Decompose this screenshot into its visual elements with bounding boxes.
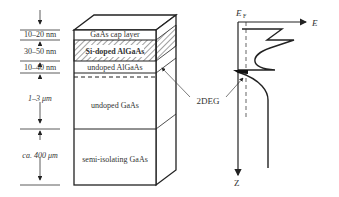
depth-axis-label: Z xyxy=(234,178,240,188)
heterostructure-diagram: 10–20 nm 30–50 nm 10–40 nm 1–3 μm ca. 40… xyxy=(0,0,339,197)
layer-label-undoped-gaas: undoped GaAs xyxy=(91,101,139,110)
thickness-label-undoped-gaas: 1–3 μm xyxy=(28,94,52,103)
energy-axis-label: E xyxy=(311,18,318,28)
layer-label-substrate: semi-isolating GaAs xyxy=(82,155,148,164)
thickness-label-cap: 10–20 nm xyxy=(24,30,57,39)
fermi-level-subscript: F xyxy=(243,13,247,19)
thickness-label-doped: 30–50 nm xyxy=(24,47,57,56)
band-diagram xyxy=(238,22,306,175)
layer-label-undoped-algaas: undoped AlGaAs xyxy=(87,63,142,72)
thickness-label-substrate: ca. 400 μm xyxy=(22,151,58,160)
thickness-label-undoped-algaas: 10–40 nm xyxy=(24,63,57,72)
2deg-label: 2DEG xyxy=(197,96,220,106)
layer-label-cap: GaAs cap layer xyxy=(90,30,140,39)
layer-label-doped: Si-doped AlGaAs xyxy=(86,47,145,56)
fermi-level-label: E xyxy=(235,8,242,18)
